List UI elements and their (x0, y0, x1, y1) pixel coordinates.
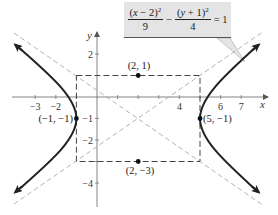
point-top (136, 73, 141, 78)
y-tick-2: 2 (88, 49, 93, 60)
equals-one: = 1 (214, 14, 228, 26)
arrow-upper-left (15, 45, 22, 51)
vertex-right (198, 116, 203, 121)
fraction-x-term: (x − 2)2 9 (128, 7, 164, 33)
x-axis (12, 95, 268, 99)
callout-pointer (217, 38, 245, 62)
x-tick-4: 4 (177, 101, 182, 112)
y-axis-label: y (86, 29, 92, 41)
label-top-point: (2, 1) (128, 60, 151, 72)
y-axis (95, 32, 99, 207)
label-bottom-point: (2, −3) (126, 165, 155, 177)
point-bottom (136, 159, 141, 164)
label-left-vertex: (−1, −1) (38, 113, 73, 125)
vertex-left (74, 116, 79, 121)
x-tick-neg3: −3 (30, 101, 41, 112)
y-tick-neg2: −2 (82, 135, 93, 146)
x-tick-6: 6 (218, 101, 223, 112)
x-tick-neg2: −2 (50, 101, 61, 112)
label-right-vertex: (5, −1) (203, 113, 232, 125)
arrow-lower-right (252, 187, 259, 193)
y-tick-neg4: −4 (82, 178, 93, 189)
equation-box: (x − 2)2 9 − (y + 1)2 4 = 1 (124, 2, 231, 38)
x-axis-label: x (259, 98, 265, 110)
minus-sign: − (166, 14, 172, 26)
x-tick-7: 7 (239, 101, 244, 112)
arrow-upper-right (252, 45, 259, 51)
y-tick-neg1: −1 (82, 113, 93, 124)
fraction-y-term: (y + 1)2 4 (175, 7, 211, 33)
arrow-lower-left (15, 187, 22, 193)
